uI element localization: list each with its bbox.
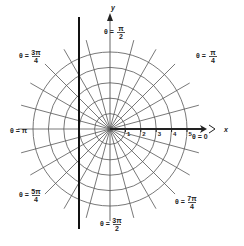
polar-grid-svg: yx12345 θ = 0θ =π4θ =π2θ =3π4θ = πθ =5π4… [0, 0, 244, 246]
svg-text:4: 4 [190, 203, 194, 210]
svg-text:2: 2 [115, 225, 119, 232]
svg-text:3π: 3π [31, 49, 41, 56]
radial-line-60deg [110, 49, 156, 129]
radial-line-345deg [110, 129, 199, 153]
radial-line-330deg [110, 129, 190, 175]
svg-text:θ = π: θ = π [10, 127, 28, 134]
radial-line-75deg [110, 40, 134, 129]
x-tick-label-1: 1 [127, 131, 131, 137]
angle-label-theta-3pi-2: θ =3π2 [100, 217, 122, 232]
svg-text:π: π [210, 49, 216, 56]
svg-text:4: 4 [34, 196, 38, 203]
angle-label-theta-0: θ = 0 [192, 133, 208, 140]
radial-line-195deg [21, 129, 110, 153]
svg-text:4: 4 [211, 57, 215, 64]
svg-text:θ =: θ = [175, 198, 185, 205]
radial-line-255deg [86, 129, 110, 218]
angle-label-theta-3pi-4: θ =3π4 [19, 49, 41, 64]
svg-text:5π: 5π [31, 188, 41, 195]
angle-label-theta-7pi-4: θ =7π4 [175, 195, 197, 210]
svg-text:θ =: θ = [100, 220, 110, 227]
x-axis-arrow-outline-icon [209, 125, 215, 133]
radial-line-15deg [110, 105, 199, 129]
radial-line-315deg [110, 129, 175, 194]
polar-coordinate-diagram: yx12345 θ = 0θ =π4θ =π2θ =3π4θ = πθ =5π4… [0, 0, 244, 246]
radial-line-120deg [64, 49, 110, 129]
radial-line-30deg [110, 83, 190, 129]
svg-text:θ =: θ = [104, 28, 114, 35]
radial-line-225deg [45, 129, 110, 194]
radial-line-210deg [30, 129, 110, 175]
y-axis-label: y [110, 4, 116, 12]
radial-line-45deg [110, 64, 175, 129]
angle-label-theta-pi-4: θ =π4 [196, 49, 217, 64]
radial-line-240deg [64, 129, 110, 209]
radial-line-300deg [110, 129, 156, 209]
y-axis-arrow-icon [107, 13, 113, 21]
svg-text:θ =: θ = [19, 191, 29, 198]
svg-text:7π: 7π [187, 195, 197, 202]
svg-text:4: 4 [34, 57, 38, 64]
svg-text:θ =: θ = [196, 52, 206, 59]
svg-text:θ =: θ = [19, 52, 29, 59]
x-tick-label-3: 3 [158, 131, 162, 137]
svg-text:π: π [118, 25, 124, 32]
x-axis-label: x [223, 126, 229, 133]
angle-label-theta-pi-2: θ =π2 [104, 25, 125, 40]
radial-line-285deg [110, 129, 134, 218]
svg-text:3π: 3π [112, 217, 122, 224]
radial-line-135deg [45, 64, 110, 129]
angle-label-theta-5pi-4: θ =5π4 [19, 188, 41, 203]
radial-line-165deg [21, 105, 110, 129]
x-tick-label-2: 2 [142, 131, 146, 137]
svg-text:θ = 0: θ = 0 [192, 133, 208, 140]
radial-line-105deg [86, 40, 110, 129]
angle-label-theta-pi: θ = π [10, 127, 28, 134]
radial-line-150deg [30, 83, 110, 129]
x-tick-label-4: 4 [173, 131, 177, 137]
svg-text:2: 2 [119, 33, 123, 40]
